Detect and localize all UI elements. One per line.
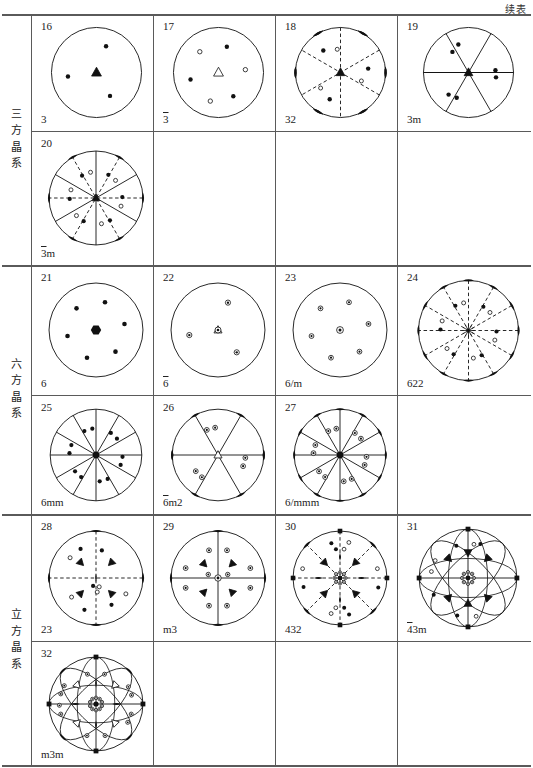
stereogram-cell-32[interactable]: 32m3m [31, 641, 153, 766]
stereogram-table: 三方晶系六方晶系立方晶系1631731832193m203m216226236/… [2, 14, 531, 766]
stereogram-3 [43, 19, 150, 126]
stereogram-cell-30[interactable]: 30432 [275, 514, 397, 641]
stereogram-cell-29[interactable]: 29m3 [153, 514, 275, 641]
system-label-char: 立 [11, 607, 22, 624]
system-label-char: 方 [11, 123, 22, 140]
stereogram-cell-19[interactable]: 193m [397, 14, 531, 131]
stereogram-cell-22[interactable]: 226 [153, 265, 275, 395]
system-label-char: 晶 [11, 390, 22, 407]
system-label-char: 方 [11, 624, 22, 641]
system-label-char: 系 [11, 156, 22, 173]
system-label-char: 晶 [11, 140, 22, 157]
table-rule-vertical [275, 131, 276, 265]
stereogram-6-mmm [286, 401, 394, 509]
stereogram-6m2 [164, 401, 272, 509]
page-root: 续表 三方晶系六方晶系立方晶系1631731832193m203m2162262… [0, 0, 533, 768]
stereogram-m3m [41, 649, 151, 759]
system-label-trigonal: 三方晶系 [2, 14, 31, 265]
stereogram-23 [41, 523, 151, 633]
system-label-char: 三 [11, 107, 22, 124]
stereogram-32 [287, 19, 394, 126]
system-label-cubic: 立方晶系 [2, 514, 31, 766]
stereogram-cell-28[interactable]: 2823 [31, 514, 153, 641]
table-rule-vertical [275, 641, 276, 766]
table-rule-vertical [153, 131, 154, 265]
table-rule-vertical [153, 641, 154, 766]
system-label-char: 方 [11, 373, 22, 390]
system-label-char: 系 [11, 406, 22, 423]
stereogram-cell-25[interactable]: 256mm [31, 395, 153, 514]
stereogram-6-m [285, 275, 395, 385]
stereogram-cell-21[interactable]: 216 [31, 265, 153, 395]
stereogram-3 [165, 19, 272, 126]
system-label-char: 系 [11, 657, 22, 674]
stereogram-3m [415, 19, 522, 126]
stereogram-43m [411, 521, 525, 635]
stereogram-m3 [163, 523, 273, 633]
stereogram-cell-16[interactable]: 163 [31, 14, 153, 131]
stereogram-cell-20[interactable]: 203m [31, 131, 153, 265]
table-rule-vertical [397, 131, 398, 265]
stereogram-cell-31[interactable]: 3143m [397, 514, 531, 641]
table-rule-vertical [397, 641, 398, 766]
stereogram-cell-24[interactable]: 24622 [397, 265, 531, 395]
stereogram-cell-27[interactable]: 276/mmm [275, 395, 397, 514]
stereogram-6 [163, 275, 273, 385]
stereogram-6 [41, 275, 151, 385]
stereogram-cell-26[interactable]: 266m2 [153, 395, 275, 514]
stereogram-cell-17[interactable]: 173 [153, 14, 275, 131]
system-label-hexagonal: 六方晶系 [2, 265, 31, 514]
stereogram-432 [285, 523, 395, 633]
system-label-char: 六 [11, 357, 22, 374]
system-label-char: 晶 [11, 640, 22, 657]
table-rule-vertical [397, 395, 398, 514]
stereogram-cell-18[interactable]: 1832 [275, 14, 397, 131]
stereogram-3m [41, 143, 151, 253]
stereogram-622 [410, 272, 527, 389]
stereogram-6mm [42, 401, 150, 509]
stereogram-cell-23[interactable]: 236/m [275, 265, 397, 395]
